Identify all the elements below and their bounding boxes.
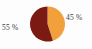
- pie-label-45-percent: 45 %: [66, 13, 82, 22]
- pie-label-55-percent: 55 %: [2, 23, 18, 32]
- pie-chart-figure: 55 % 45 %: [0, 0, 92, 49]
- pie-slices: [30, 6, 65, 41]
